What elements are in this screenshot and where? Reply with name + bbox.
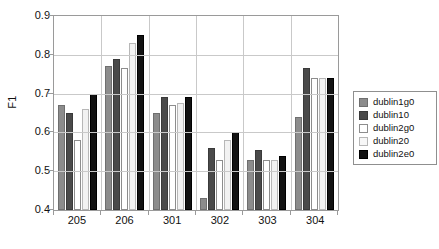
legend-swatch-icon xyxy=(359,124,368,133)
bar-dublin20-206[interactable] xyxy=(129,43,136,210)
y-axis-tick-label: 0.5 xyxy=(24,165,50,176)
bar-group-303 xyxy=(243,16,290,210)
legend-swatch-icon xyxy=(359,111,368,120)
bar-group-301 xyxy=(149,16,196,210)
bar-dublin1g0-301[interactable] xyxy=(153,113,160,210)
bar-chart: F1 0.90.80.70.60.50.4 205206301302303304… xyxy=(0,0,439,249)
gridline-vertical xyxy=(243,16,244,210)
y-axis-tick-label: 0.8 xyxy=(24,49,50,60)
legend-item-dublin1g0[interactable]: dublin1g0 xyxy=(359,96,432,108)
bar-dublin2g0-303[interactable] xyxy=(263,160,270,210)
x-axis-tick-label-205: 205 xyxy=(53,214,101,226)
bar-dublin1g0-303[interactable] xyxy=(247,160,254,210)
bar-dublin20-304[interactable] xyxy=(319,78,326,210)
legend-item-label: dublin2e0 xyxy=(373,149,414,159)
gridline-vertical xyxy=(196,16,197,210)
bar-dublin2g0-301[interactable] xyxy=(169,105,176,210)
x-axis-tick-label-304: 304 xyxy=(291,214,339,226)
y-axis-tick-label: 0.9 xyxy=(24,10,50,21)
y-axis-label: F1 xyxy=(6,92,18,112)
bar-dublin1g0-206[interactable] xyxy=(105,66,112,210)
bar-group-302 xyxy=(196,16,243,210)
gridline-vertical xyxy=(101,16,102,210)
bar-dublin2e0-301[interactable] xyxy=(185,97,192,210)
bar-dublin2e0-205[interactable] xyxy=(90,94,97,210)
bar-dublin2e0-303[interactable] xyxy=(279,156,286,210)
bar-dublin1g0-205[interactable] xyxy=(58,105,65,210)
bar-dublin10-303[interactable] xyxy=(255,150,262,210)
bar-dublin10-301[interactable] xyxy=(161,97,168,210)
bar-dublin10-206[interactable] xyxy=(113,59,120,210)
legend-item-label: dublin2g0 xyxy=(373,123,414,133)
x-axis-tick-label-302: 302 xyxy=(196,214,244,226)
bar-group-205 xyxy=(54,16,101,210)
bar-dublin1g0-302[interactable] xyxy=(200,198,207,210)
bar-dublin10-302[interactable] xyxy=(208,148,215,210)
bar-dublin2e0-206[interactable] xyxy=(137,35,144,210)
bar-dublin2g0-206[interactable] xyxy=(121,68,128,210)
bar-dublin2g0-304[interactable] xyxy=(311,78,318,210)
legend: dublin1g0dublin10dublin2g0dublin20dublin… xyxy=(353,91,437,165)
x-axis-tick-label-206: 206 xyxy=(101,214,149,226)
bar-dublin20-301[interactable] xyxy=(177,103,184,210)
x-axis-tick-label-303: 303 xyxy=(244,214,292,226)
legend-item-dublin10[interactable]: dublin10 xyxy=(359,109,432,121)
legend-swatch-icon xyxy=(359,137,368,146)
bar-dublin1g0-304[interactable] xyxy=(295,117,302,210)
bar-dublin20-302[interactable] xyxy=(224,140,231,210)
x-axis-tick-labels: 205206301302303304 xyxy=(53,214,339,226)
y-axis-tick-label: 0.6 xyxy=(24,126,50,137)
legend-swatch-icon xyxy=(359,150,368,159)
bar-dublin2e0-304[interactable] xyxy=(327,78,334,210)
bar-dublin20-205[interactable] xyxy=(82,109,89,210)
bar-dublin2g0-302[interactable] xyxy=(216,160,223,210)
legend-item-label: dublin1g0 xyxy=(373,97,414,107)
legend-item-dublin20[interactable]: dublin20 xyxy=(359,135,432,147)
legend-item-label: dublin10 xyxy=(373,110,409,120)
gridline-vertical xyxy=(149,16,150,210)
gridline-vertical xyxy=(291,16,292,210)
y-axis-tick-label: 0.7 xyxy=(24,88,50,99)
legend-item-label: dublin20 xyxy=(373,136,409,146)
bar-group-304 xyxy=(291,16,338,210)
y-axis-tick-labels: 0.90.80.70.60.50.4 xyxy=(20,0,50,249)
legend-item-dublin2e0[interactable]: dublin2e0 xyxy=(359,148,432,160)
plot-area xyxy=(53,15,339,211)
legend-swatch-icon xyxy=(359,98,368,107)
legend-item-dublin2g0[interactable]: dublin2g0 xyxy=(359,122,432,134)
bar-dublin10-205[interactable] xyxy=(66,113,73,210)
x-axis-tick-label-301: 301 xyxy=(148,214,196,226)
bar-dublin2g0-205[interactable] xyxy=(74,140,81,210)
bar-dublin20-303[interactable] xyxy=(271,160,278,210)
bar-group-206 xyxy=(101,16,148,210)
y-axis-tick-label: 0.4 xyxy=(24,204,50,215)
bar-dublin10-304[interactable] xyxy=(303,68,310,210)
